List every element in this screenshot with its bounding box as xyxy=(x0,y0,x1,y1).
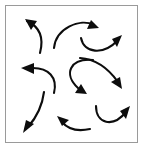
arrow-middle-right: middle-right arrow pointing down-right xyxy=(80,58,122,89)
arrow-canvas: top-left arrow pointing up-lefttop-cente… xyxy=(0,0,147,151)
arrow-bottom-center-shaft xyxy=(62,122,90,130)
arrow-top-left: top-left arrow pointing up-left xyxy=(25,19,41,53)
arrow-bottom-center: bottom-center arrow pointing up-left xyxy=(57,116,90,130)
arrow-bottom-left-shaft xyxy=(28,92,44,127)
arrow-middle-left: middle-left arrow pointing left xyxy=(21,63,55,93)
arrow-center-shaft xyxy=(70,60,93,88)
arrow-middle-left-head-icon xyxy=(21,63,34,74)
arrow-top-left-head-icon xyxy=(25,19,37,30)
arrow-top-right-shaft xyxy=(81,38,118,51)
arrow-bottom-right: bottom-right arrow pointing up-right xyxy=(96,106,130,122)
arrow-middle-left-shaft xyxy=(33,68,55,93)
arrow-top-center-head-icon xyxy=(87,20,99,29)
arrow-top-center-shaft xyxy=(54,23,94,48)
arrow-center: center arrow pointing right-down xyxy=(70,60,93,94)
arrow-top-center: top-center arrow pointing right xyxy=(54,20,99,48)
arrow-bottom-center-head-icon xyxy=(57,116,69,126)
figure-root: top-left arrow pointing up-lefttop-cente… xyxy=(0,0,147,151)
arrow-bottom-right-shaft xyxy=(96,106,126,122)
arrow-bottom-left: bottom-left arrow pointing down-left xyxy=(23,92,44,133)
arrow-middle-right-shaft xyxy=(80,58,118,82)
arrow-top-right: top-right arrow pointing up-right xyxy=(81,35,122,51)
